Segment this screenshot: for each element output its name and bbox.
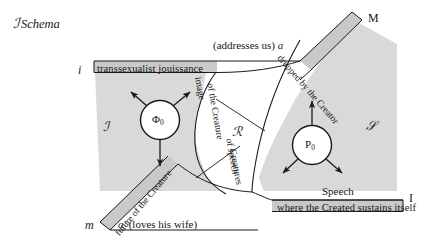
symbol-real: ℛ [232,124,242,140]
symbol-imaginary: ℐ [103,119,109,135]
band-label-transsexualist-jouissance: transsexualist jouissance [97,64,203,75]
annotation-addresses-us: (addresses us) a [213,40,283,51]
endpoint-label-M: M [368,12,379,24]
page-title: ℐSchema [13,17,60,31]
figure-canvas: ℐSchema i m M I transsexualist jouissanc… [0,0,428,244]
node-label-p-zero: P0 [305,138,315,150]
phi-glyph: Φ [152,113,160,125]
symbol-symbolic: 𝒮 [366,118,376,134]
p-subscript: 0 [311,143,315,152]
addresses-us-text: (addresses us) [213,39,278,51]
endpoint-label-m: m [85,219,94,231]
title-text: Schema [21,17,60,31]
annotation-speech: Speech [322,186,354,197]
phi-subscript: 0 [160,118,164,127]
addresses-us-variable: a [278,39,284,51]
endpoint-label-i: i [78,64,81,76]
loves-his-wife-text: (loves his wife) [126,218,197,230]
node-label-phi-zero: Φ0 [152,113,164,125]
band-label-where-the-created-sustains-itself: where the Created sustains itself [277,203,416,214]
title-script-symbol: ℐ [13,16,21,31]
